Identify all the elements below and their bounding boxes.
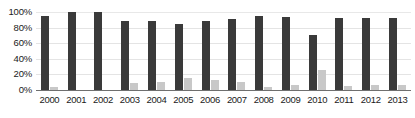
x-axis-tick-label: 2008 [250,92,277,112]
bar-primary-2009 [282,17,290,90]
bar-group [331,12,358,90]
bar-primary-2007 [228,19,236,90]
x-axis-tick-label: 2010 [304,92,331,112]
x-axis-tick-label: 2004 [143,92,170,112]
y-axis-tick-label: 20% [14,70,32,80]
bar-secondary-2006 [211,80,219,90]
bar-secondary-2013 [398,85,406,90]
x-axis-tick-label: 2001 [63,92,90,112]
bar-primary-2000 [41,16,49,90]
axis-baseline [36,90,411,91]
y-axis-tick-label: 60% [14,38,32,48]
bar-primary-2010 [309,35,317,90]
x-axis-tick-label: 2006 [197,92,224,112]
bar-chart: 0%20%40%60%80%100% 200020012002200320042… [0,0,415,118]
x-axis: 2000200120022003200420052006200720082009… [36,92,411,112]
y-axis: 0%20%40%60%80%100% [0,12,34,90]
bar-secondary-2009 [291,85,299,90]
bar-group [304,12,331,90]
bar-group [250,12,277,90]
x-axis-tick-label: 2013 [384,92,411,112]
x-axis-tick-label: 2011 [331,92,358,112]
bar-primary-2008 [255,16,263,90]
bar-secondary-2005 [184,78,192,90]
bar-group [277,12,304,90]
bar-primary-2011 [335,18,343,90]
bar-group [170,12,197,90]
bar-primary-2012 [362,18,370,90]
x-axis-tick-label: 2005 [170,92,197,112]
x-axis-tick-label: 2003 [116,92,143,112]
x-axis-tick-label: 2000 [36,92,63,112]
y-axis-tick-label: 100% [9,7,33,17]
bar-groups [36,12,411,90]
bar-secondary-2010 [318,70,326,90]
y-axis-tick-label: 80% [14,23,32,33]
bar-secondary-2007 [237,82,245,90]
x-axis-tick-label: 2002 [90,92,117,112]
bar-group [357,12,384,90]
bar-group [116,12,143,90]
bar-group [223,12,250,90]
bar-secondary-2003 [130,83,138,90]
bar-primary-2005 [175,24,183,90]
bar-group [36,12,63,90]
bar-group [143,12,170,90]
bar-group [90,12,117,90]
bar-primary-2003 [121,21,129,90]
bar-primary-2013 [389,18,397,90]
bar-secondary-2011 [344,86,352,90]
y-axis-tick-label: 40% [14,54,32,64]
bar-primary-2001 [68,12,76,90]
x-axis-tick-label: 2009 [277,92,304,112]
plot-area [36,12,411,90]
bar-primary-2004 [148,21,156,90]
bar-secondary-2004 [157,82,165,90]
bar-secondary-2012 [371,85,379,90]
x-axis-tick-label: 2012 [357,92,384,112]
y-axis-tick-label: 0% [19,85,32,95]
bar-primary-2002 [94,12,102,90]
x-axis-tick-label: 2007 [223,92,250,112]
bar-group [197,12,224,90]
bar-secondary-2008 [264,87,272,90]
bar-secondary-2000 [50,87,58,90]
bar-group [384,12,411,90]
bar-primary-2006 [202,21,210,90]
bar-group [63,12,90,90]
